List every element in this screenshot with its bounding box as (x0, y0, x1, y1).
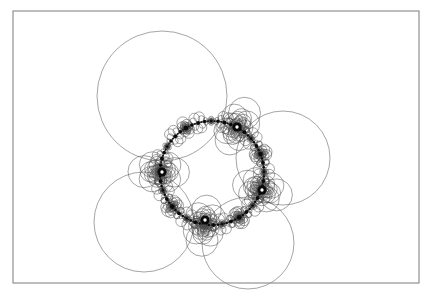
chain-bead (262, 160, 263, 161)
chain-bead (246, 133, 247, 134)
chain-bead (247, 210, 248, 211)
chain-bead (181, 215, 183, 217)
chain-bead (190, 123, 193, 126)
chain-bead (262, 183, 263, 184)
chain-bead (211, 224, 212, 225)
chain-bead (248, 208, 250, 210)
chain-bead (216, 120, 219, 123)
chain-bead (249, 136, 250, 137)
secondary-cusp-dot (237, 215, 242, 220)
chain-bead (159, 179, 163, 183)
chain-bead (160, 185, 162, 187)
chain-bead (168, 143, 170, 145)
chain-bead (263, 166, 265, 168)
chain-bead (162, 188, 163, 189)
chain-bead (255, 143, 256, 144)
chain-bead (160, 183, 161, 184)
chain-bead (261, 179, 265, 183)
chain-bead (188, 219, 189, 220)
chain-bead (215, 224, 216, 225)
chain-bead (263, 169, 264, 170)
chain-bead (257, 147, 258, 148)
chain-bead (182, 129, 184, 131)
chain-bead (162, 155, 164, 157)
chain-bead (261, 157, 263, 159)
tertiary-cusp-dot (162, 189, 165, 192)
chain-bead (229, 219, 233, 223)
chain-bead (254, 201, 256, 203)
cusp-core-east-cusp (260, 188, 263, 191)
chain-bead (160, 161, 162, 163)
cusp-core-north-cusp (235, 125, 238, 128)
chain-bead (263, 174, 264, 175)
chain-bead (263, 164, 264, 165)
chain-bead (192, 221, 193, 222)
chain-bead (169, 139, 172, 142)
chain-bead (179, 130, 182, 133)
tertiary-cusp-dot (166, 145, 169, 148)
chain-bead (263, 175, 265, 177)
chain-bead (257, 149, 259, 151)
chain-bead (160, 157, 164, 161)
cusp-core-south-cusp (203, 218, 206, 221)
cusp-core-west-cusp (160, 170, 163, 173)
chain-bead (163, 192, 164, 193)
chain-bead (177, 211, 178, 212)
chain-bead (160, 178, 161, 179)
chain-bead (184, 217, 185, 218)
chain-bead (251, 207, 252, 208)
chain-bead (188, 126, 190, 128)
chain-bead (196, 121, 200, 125)
chain-bead (253, 203, 254, 204)
chain-bead (197, 222, 198, 223)
chain-bead (220, 121, 222, 123)
chain-bead (207, 120, 209, 122)
chain-bead (208, 224, 210, 226)
chain-bead (244, 213, 245, 214)
chain-bead (190, 219, 192, 221)
chain-bead (256, 196, 260, 200)
chain-bead (227, 123, 229, 125)
chain-bead (256, 199, 257, 200)
chain-bead (247, 134, 249, 136)
chain-bead (168, 200, 169, 201)
chain-bead (199, 222, 201, 224)
chain-bead (229, 123, 232, 126)
secondary-cusp-dot (170, 204, 175, 209)
chain-bead (165, 197, 169, 201)
chain-bead (159, 164, 162, 167)
chain-bead (177, 133, 179, 135)
chain-bead (217, 223, 219, 225)
chain-bead (261, 161, 265, 165)
tertiary-cusp-dot (221, 223, 224, 226)
circle-packing-figure (0, 0, 431, 295)
figure-root (0, 0, 431, 295)
chain-bead (226, 222, 228, 224)
chain-bead (222, 121, 226, 125)
chain-bead (165, 149, 167, 151)
chain-bead (258, 195, 259, 196)
chain-bead (200, 121, 202, 123)
chain-bead (164, 194, 166, 196)
chain-bead (242, 130, 243, 131)
chain-bead (234, 218, 236, 220)
chain-bead (252, 140, 253, 141)
chain-bead (220, 224, 221, 225)
chain-bead (263, 178, 264, 179)
chain-bead (193, 220, 197, 224)
chain-bead (173, 134, 177, 138)
chain-bead (180, 214, 181, 215)
chain-bead (174, 209, 176, 211)
secondary-cusp-dot (258, 152, 263, 157)
chain-bead (172, 138, 174, 140)
chain-bead (168, 202, 170, 204)
tertiary-cusp-dot (250, 137, 253, 140)
chain-bead (203, 120, 206, 123)
tertiary-cusp-dot (263, 171, 266, 174)
tertiary-cusp-dot (210, 120, 213, 123)
tertiary-cusp-dot (251, 204, 254, 207)
chain-bead (242, 214, 244, 216)
chain-bead (253, 141, 255, 143)
chain-bead (228, 222, 229, 223)
chain-bead (211, 223, 215, 227)
